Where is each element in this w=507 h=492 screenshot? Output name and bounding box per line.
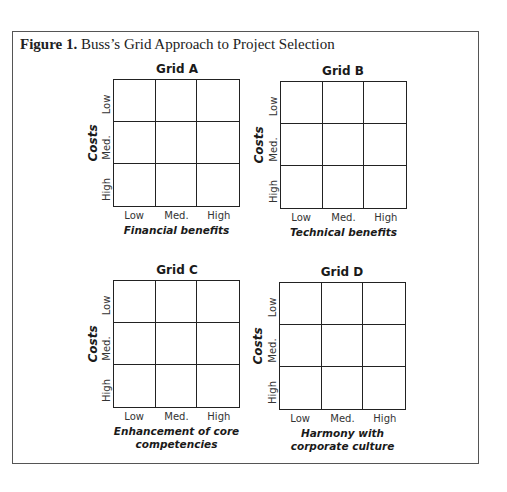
grid-cell bbox=[114, 365, 156, 407]
figure-label: Figure 1. bbox=[20, 36, 77, 52]
x-tick-med: Med. bbox=[155, 411, 197, 422]
grid-cell bbox=[323, 124, 365, 166]
grid-cell bbox=[280, 367, 322, 409]
grid-cell bbox=[322, 283, 364, 325]
grid-cell bbox=[197, 281, 239, 323]
x-axis-label: Technical benefits bbox=[267, 226, 420, 239]
x-tick-low: Low bbox=[113, 210, 155, 221]
grid-cell bbox=[156, 80, 198, 122]
x-tick-low: Low bbox=[113, 411, 155, 422]
grid-c-matrix bbox=[113, 280, 240, 408]
x-ticks: Low Med. High bbox=[280, 212, 407, 223]
grid-cell bbox=[364, 82, 406, 124]
grid-b-panel: Grid B Costs Low Med. High Low Med. High… bbox=[246, 64, 446, 259]
grid-cell bbox=[323, 82, 365, 124]
y-axis-label: Costs bbox=[251, 327, 265, 364]
grid-cell bbox=[197, 323, 239, 365]
x-axis-label-line1: Harmony with bbox=[266, 427, 419, 440]
grid-cell bbox=[156, 122, 198, 164]
y-axis-label: Costs bbox=[86, 124, 100, 161]
x-ticks: Low Med. High bbox=[113, 411, 240, 422]
x-axis-label: Enhancement of core competencies bbox=[100, 425, 253, 451]
y-tick-low: Low bbox=[101, 286, 112, 326]
y-tick-med: Med. bbox=[267, 331, 278, 371]
x-tick-high: High bbox=[198, 411, 240, 422]
x-tick-high: High bbox=[364, 413, 406, 424]
grid-cell bbox=[364, 166, 406, 208]
grid-cell bbox=[197, 122, 239, 164]
grid-cell bbox=[363, 283, 405, 325]
y-axis-label: Costs bbox=[252, 126, 266, 163]
grid-cell bbox=[114, 164, 156, 206]
grid-cell bbox=[280, 283, 322, 325]
x-ticks: Low Med. High bbox=[279, 413, 406, 424]
x-tick-med: Med. bbox=[322, 212, 364, 223]
y-tick-med: Med. bbox=[268, 130, 279, 170]
grid-title: Grid D bbox=[242, 265, 442, 279]
y-tick-med: Med. bbox=[101, 128, 112, 168]
grid-cell bbox=[281, 82, 323, 124]
grid-cell bbox=[281, 124, 323, 166]
figure-caption: Buss’s Grid Approach to Project Selectio… bbox=[81, 36, 335, 52]
y-tick-high: High bbox=[268, 172, 279, 212]
y-tick-high: High bbox=[267, 373, 278, 413]
x-axis-label-line1: Financial benefits bbox=[100, 224, 253, 237]
x-ticks: Low Med. High bbox=[113, 210, 240, 221]
x-axis-label-line1: Enhancement of core bbox=[100, 425, 253, 438]
grid-cell bbox=[197, 164, 239, 206]
grid-cell bbox=[156, 281, 198, 323]
grid-cell bbox=[363, 367, 405, 409]
x-tick-med: Med. bbox=[321, 413, 363, 424]
y-tick-low: Low bbox=[268, 87, 279, 127]
x-axis-label-line2: corporate culture bbox=[266, 440, 419, 453]
grid-d-panel: Grid D Costs Low Med. High Low Med. High… bbox=[245, 265, 445, 460]
y-tick-high: High bbox=[101, 371, 112, 411]
x-tick-high: High bbox=[198, 210, 240, 221]
grid-d-matrix bbox=[279, 282, 406, 410]
x-axis-label-line1: Technical benefits bbox=[267, 226, 420, 239]
grid-cell bbox=[322, 325, 364, 367]
grid-cell bbox=[363, 325, 405, 367]
grid-a-matrix bbox=[113, 79, 240, 207]
grid-cell bbox=[280, 325, 322, 367]
grid-cell bbox=[281, 166, 323, 208]
x-axis-label: Financial benefits bbox=[100, 224, 253, 237]
x-tick-med: Med. bbox=[155, 210, 197, 221]
x-tick-high: High bbox=[365, 212, 407, 223]
y-tick-med: Med. bbox=[101, 329, 112, 369]
grid-cell bbox=[156, 365, 198, 407]
grid-cell bbox=[323, 166, 365, 208]
grid-cell bbox=[114, 281, 156, 323]
x-tick-low: Low bbox=[280, 212, 322, 223]
grid-cell bbox=[364, 124, 406, 166]
grid-cell bbox=[197, 80, 239, 122]
grid-cell bbox=[114, 323, 156, 365]
x-axis-label-line2: competencies bbox=[100, 438, 253, 451]
grid-cell bbox=[114, 80, 156, 122]
y-axis-label: Costs bbox=[86, 325, 100, 362]
grid-cell bbox=[322, 367, 364, 409]
grid-cell bbox=[156, 323, 198, 365]
y-tick-high: High bbox=[101, 170, 112, 210]
grid-title: Grid B bbox=[243, 64, 443, 78]
y-tick-low: Low bbox=[101, 85, 112, 125]
grid-cell bbox=[114, 122, 156, 164]
figure-title: Figure 1. Buss’s Grid Approach to Projec… bbox=[20, 36, 335, 53]
grid-cell bbox=[197, 365, 239, 407]
grid-b-matrix bbox=[280, 81, 407, 209]
x-axis-label: Harmony with corporate culture bbox=[266, 427, 419, 453]
y-tick-low: Low bbox=[267, 288, 278, 328]
x-tick-low: Low bbox=[279, 413, 321, 424]
grid-cell bbox=[156, 164, 198, 206]
